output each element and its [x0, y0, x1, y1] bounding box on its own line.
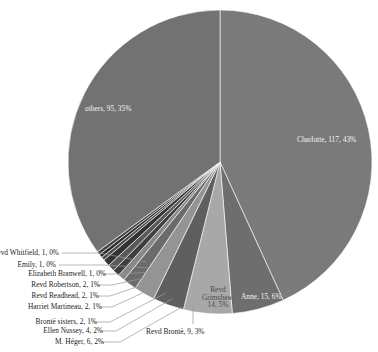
slice-label-m-heger: M. Héger, 6, 2%: [55, 338, 104, 346]
slice-label-elizabeth-branwell: Elizabeth Branwell, 1, 0%: [28, 270, 106, 278]
slice-label-ellen-nussey: Ellen Nussey, 4, 2%: [43, 327, 103, 335]
slice-label-anne: Anne, 15, 6%: [241, 293, 282, 301]
slice-label-revd-grimshaw: Revd Grimshaw, 14, 5%: [196, 286, 240, 309]
pie-slice-group: [68, 10, 372, 314]
slice-label-others: others, 95, 35%: [85, 105, 131, 113]
pie-chart: Charlotte, 117, 43% Anne, 15, 6% Revd Gr…: [0, 0, 378, 352]
slice-label-revd-readhead: Revd Readhead, 2, 1%: [31, 292, 99, 300]
slice-label-charlotte: Charlotte, 117, 43%: [297, 136, 356, 144]
slice-label-revd-bronte: Revd Brontë, 9, 3%: [146, 328, 205, 336]
slice-label-revd-robertson: Revd Robertson, 2, 1%: [31, 281, 100, 289]
slice-label-revd-whitfield: Revd Whitfield, 1, 0%: [0, 249, 59, 257]
slice-label-revd-grimshaw-line3: 14, 5%: [196, 301, 240, 309]
slice-label-harriet-martineau: Harriet Martineau, 2, 1%: [28, 303, 102, 311]
